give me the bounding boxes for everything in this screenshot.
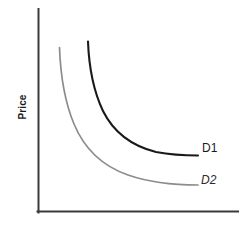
chart-canvas [0,0,242,234]
curve-label-d2: D2 [201,173,216,187]
demand-curve-d2 [60,48,199,186]
curve-label-d1: D1 [202,141,217,155]
demand-curve-figure: Price D1 D2 [0,0,242,234]
demand-curve-d1 [88,42,198,156]
